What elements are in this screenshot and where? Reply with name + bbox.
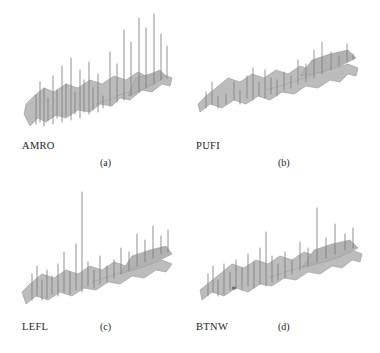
figure-panel-grid: AMRO (a)	[0, 0, 380, 353]
spike-plot-btnw	[190, 176, 380, 318]
subcaption-b: (b)	[278, 157, 290, 168]
map-surface-pufi	[198, 50, 358, 112]
spike-bars-lefl	[32, 192, 168, 300]
spike-plot-amro	[0, 0, 190, 142]
plot-area-btnw	[190, 176, 380, 318]
plot-area-amro	[0, 0, 190, 142]
plot-area-pufi	[190, 0, 380, 142]
spike-plot-pufi	[190, 0, 380, 142]
subcaption-a: (a)	[100, 157, 111, 168]
species-label-lefl: LEFL	[22, 321, 48, 332]
species-label-amro: AMRO	[22, 140, 55, 151]
panel-a: AMRO (a)	[0, 0, 190, 176]
spike-plot-lefl	[0, 176, 190, 318]
plot-area-lefl	[0, 176, 190, 318]
species-label-btnw: BTNW	[196, 321, 228, 332]
subcaption-c: (c)	[100, 321, 111, 332]
panel-c: LEFL (c)	[0, 176, 190, 352]
subcaption-d: (d)	[278, 321, 290, 332]
species-label-pufi: PUFI	[196, 140, 220, 151]
map-surface-lefl	[22, 246, 172, 304]
panel-d: BTNW (d)	[190, 176, 380, 352]
panel-b: PUFI (b)	[190, 0, 380, 176]
